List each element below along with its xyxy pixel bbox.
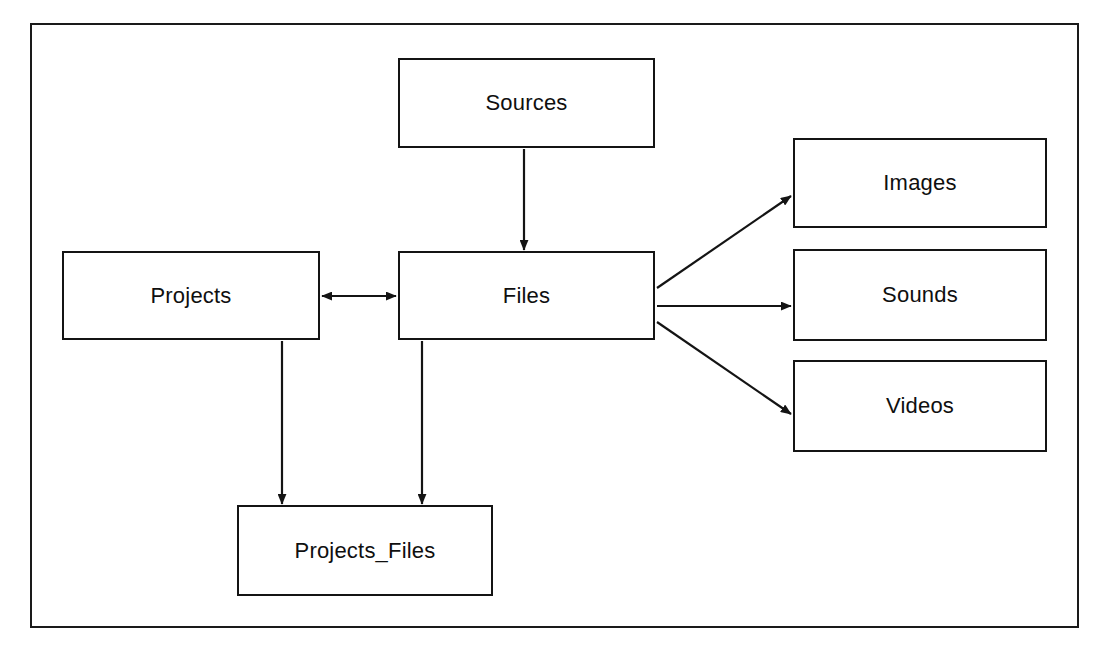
node-videos-label: Videos [886, 395, 954, 417]
node-sounds-label: Sounds [882, 284, 958, 306]
diagram-canvas: Sources Images Projects Files Sounds Vid… [0, 0, 1106, 653]
node-projects[interactable]: Projects [62, 251, 320, 340]
node-projects-label: Projects [150, 285, 231, 307]
node-files-label: Files [503, 285, 550, 307]
node-projects-files-label: Projects_Files [295, 540, 436, 562]
node-sources-label: Sources [485, 92, 567, 114]
node-projects-files[interactable]: Projects_Files [237, 505, 493, 596]
node-sources[interactable]: Sources [398, 58, 655, 148]
node-videos[interactable]: Videos [793, 360, 1047, 452]
node-images[interactable]: Images [793, 138, 1047, 228]
node-sounds[interactable]: Sounds [793, 249, 1047, 341]
node-images-label: Images [883, 172, 956, 194]
node-files[interactable]: Files [398, 251, 655, 340]
